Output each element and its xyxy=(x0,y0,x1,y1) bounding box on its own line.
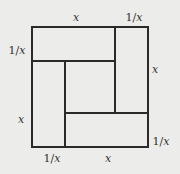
label-left-x: x xyxy=(18,114,24,125)
label-bottom-x: x xyxy=(105,153,111,164)
right-rect-left-edge xyxy=(114,26,116,114)
outer-bottom-edge xyxy=(31,146,149,148)
label-bottom-inv: 1/x xyxy=(44,153,61,164)
label-left-inv: 1/x xyxy=(9,45,26,56)
top-rect-bottom-edge xyxy=(31,60,116,62)
label-top-x: x xyxy=(73,12,79,23)
left-rect-right-edge xyxy=(64,60,66,148)
label-right-inv: 1/x xyxy=(153,136,170,147)
label-right-x: x xyxy=(152,64,158,75)
outer-left-edge xyxy=(31,26,33,148)
label-top-inv: 1/x xyxy=(126,12,143,23)
outer-right-edge xyxy=(147,26,149,148)
bottom-rect-top-edge xyxy=(64,112,149,114)
outer-top-edge xyxy=(31,26,149,28)
